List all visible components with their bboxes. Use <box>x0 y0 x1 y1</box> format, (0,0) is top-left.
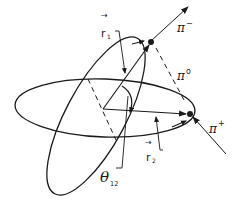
r1-leader-line <box>115 31 125 73</box>
label-pi-minus: π − <box>176 19 193 35</box>
svg-text:r: r <box>146 151 151 164</box>
svg-text:r: r <box>101 27 106 40</box>
r1-vector-arrow-icon <box>103 45 149 109</box>
svg-text:θ: θ <box>100 168 109 186</box>
svg-text:12: 12 <box>110 180 118 188</box>
label-pi-plus: π + <box>208 119 225 136</box>
pi-minus-particle <box>148 39 154 45</box>
svg-text:1: 1 <box>107 33 111 40</box>
svg-text:π: π <box>176 21 186 35</box>
r2-vector-arrow-icon <box>103 109 186 114</box>
svg-text:o: o <box>186 67 191 76</box>
svg-text:→: → <box>145 138 152 147</box>
svg-text:2: 2 <box>152 157 156 164</box>
svg-text:+: + <box>218 119 225 128</box>
label-theta12: θ 12 <box>100 168 118 188</box>
tilted-orbit <box>22 24 164 203</box>
label-r2: → r 2 <box>145 138 156 164</box>
svg-text:π: π <box>176 69 186 83</box>
pi-plus-particle <box>187 111 193 117</box>
svg-text:→: → <box>101 11 108 20</box>
horizontal-orbit <box>14 76 196 140</box>
dashed-projection-lines <box>88 48 184 140</box>
label-r1: → r 1 <box>101 11 111 40</box>
label-pi-zero: π o <box>176 67 191 83</box>
decay-diagram: → r 1 → r 2 π − π o π + θ 12 <box>0 0 236 203</box>
svg-text:−: − <box>186 19 193 28</box>
svg-text:π: π <box>208 122 218 136</box>
